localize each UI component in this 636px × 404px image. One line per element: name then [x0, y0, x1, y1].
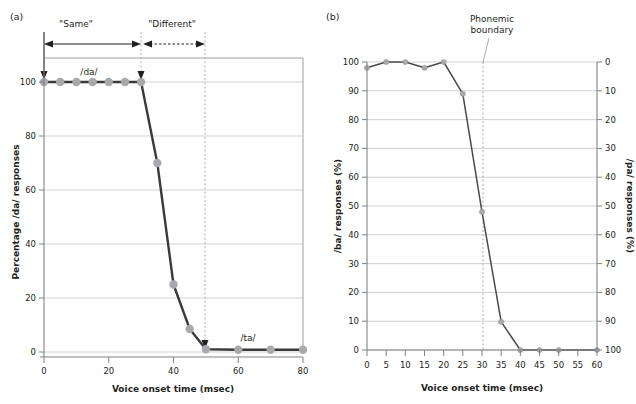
ytick-label-right: 80 [605, 287, 616, 297]
phonemic-boundary-label-line2: boundary [471, 25, 515, 35]
ytick-label: 50 [348, 201, 359, 211]
data-point [422, 65, 427, 70]
xtick-label: 45 [534, 360, 545, 370]
data-point [137, 78, 145, 86]
da-label: /da/ [80, 67, 98, 77]
data-point [153, 159, 161, 167]
same-label: "Same" [59, 19, 93, 29]
ytick-label: 70 [348, 143, 359, 153]
ytick-label-right: 0 [605, 57, 610, 67]
data-point [88, 78, 96, 86]
phonemic-boundary-label-line1: Phonemic [470, 14, 514, 24]
same-arrow-left-head [44, 41, 53, 48]
panel-b-y-axis-title-left: /ba/ responses (%) [333, 159, 343, 253]
xtick-label: 0 [41, 366, 46, 376]
data-point [186, 325, 194, 333]
panel-b-gridlines [367, 62, 597, 350]
ytick-label: 100 [20, 77, 36, 87]
ytick-label: 80 [348, 115, 359, 125]
panel-a-gridlines [44, 82, 303, 352]
panel-a-y-ticks: 100 80 60 40 20 0 [20, 77, 44, 357]
ytick-label: 60 [348, 172, 359, 182]
data-point [234, 346, 242, 354]
xtick-label: 30 [477, 360, 488, 370]
xtick-label: 20 [438, 360, 449, 370]
xtick-label: 25 [457, 360, 468, 370]
data-point [384, 59, 389, 64]
data-point [499, 319, 504, 324]
xtick-label: 15 [419, 360, 430, 370]
panel-a-x-ticks: 0 20 40 60 80 [41, 357, 308, 376]
ytick-label: 40 [25, 239, 36, 249]
data-point [460, 91, 465, 96]
ytick-label-right: 30 [605, 143, 616, 153]
panel-a-label: (a) [10, 11, 23, 22]
panel-a-x-axis-title: Voice onset time (msec) [112, 384, 234, 394]
data-point [299, 346, 307, 354]
ytick-label-right: 100 [605, 345, 621, 355]
ytick-label-right: 90 [605, 316, 616, 326]
figure-svg: (a) "Same" "Different" [0, 0, 636, 404]
ytick-label: 60 [25, 185, 36, 195]
data-point [56, 78, 64, 86]
ytick-label-right: 20 [605, 115, 616, 125]
xtick-label: 10 [400, 360, 411, 370]
panel-a-series-line [44, 82, 303, 350]
same-arrow-right-head [132, 41, 141, 48]
xtick-label: 5 [383, 360, 388, 370]
panel-b-label: (b) [326, 11, 339, 22]
xtick-label: 80 [298, 366, 309, 376]
ytick-label: 80 [25, 131, 36, 141]
xtick-label: 0 [364, 360, 369, 370]
figure-container: (a) "Same" "Different" [0, 0, 636, 404]
ytick-label: 10 [348, 316, 359, 326]
xtick-label: 50 [553, 360, 564, 370]
data-point [441, 59, 446, 64]
ytick-label: 0 [354, 345, 359, 355]
data-point [121, 78, 129, 86]
different-arrow-right-head [196, 41, 205, 48]
panel-b-x-axis-title: Voice onset time (msec) [421, 383, 543, 393]
ytick-label-right: 60 [605, 230, 616, 240]
xtick-label: 60 [233, 366, 244, 376]
panel-a-frame [44, 58, 303, 352]
ta-label: /ta/ [240, 333, 256, 343]
panel-b-y-ticks-left: 100 90 80 70 60 50 40 30 20 10 0 [343, 57, 367, 355]
xtick-label: 40 [515, 360, 526, 370]
panel-a-range-annotations: "Same" "Different" [41, 19, 209, 349]
panel-b-y-axis-title-right: /pa/ responses (%) [625, 159, 635, 253]
data-point [105, 78, 113, 86]
data-point [403, 59, 408, 64]
different-arrow-left-head [143, 41, 152, 48]
ytick-label-right: 70 [605, 259, 616, 269]
panel-b: (b) Phonemic boundary [326, 11, 635, 393]
data-point [202, 345, 210, 353]
ytick-label: 0 [31, 347, 36, 357]
data-point [479, 209, 484, 214]
xtick-label: 55 [572, 360, 583, 370]
panel-a-markers [40, 78, 307, 354]
ytick-label: 30 [348, 259, 359, 269]
ytick-label: 90 [348, 86, 359, 96]
data-point [169, 280, 177, 288]
data-point [266, 346, 274, 354]
panel-b-y-ticks-right: 0 10 20 30 40 50 60 70 80 90 100 [597, 57, 621, 355]
data-point [72, 78, 80, 86]
different-label: "Different" [148, 19, 196, 29]
ytick-label-right: 50 [605, 201, 616, 211]
ytick-label: 100 [343, 57, 359, 67]
phonemic-boundary-leader [483, 38, 489, 62]
xtick-label: 20 [103, 366, 114, 376]
ytick-label-right: 10 [605, 86, 616, 96]
xtick-label: 35 [496, 360, 507, 370]
panel-b-x-ticks: 0 5 10 15 20 25 30 35 40 45 50 55 60 [364, 350, 602, 370]
panel-a: (a) "Same" "Different" [10, 11, 308, 394]
ytick-label: 40 [348, 230, 359, 240]
ytick-label: 20 [348, 287, 359, 297]
xtick-label: 60 [592, 360, 603, 370]
ytick-label: 20 [25, 293, 36, 303]
xtick-label: 40 [168, 366, 179, 376]
panel-a-y-axis-title: Percentage /da/ responses [11, 144, 21, 279]
ytick-label-right: 40 [605, 172, 616, 182]
